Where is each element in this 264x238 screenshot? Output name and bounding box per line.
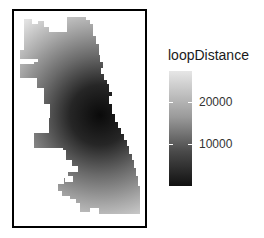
- notch-white: [20, 59, 38, 62]
- tick-mark-10000-left: [169, 144, 173, 145]
- legend-title: loopDistance: [168, 47, 249, 63]
- tick-mark-20000-left: [169, 102, 173, 103]
- colorbar: [169, 71, 192, 186]
- map-plot: [0, 0, 264, 238]
- tick-label-20000: 20000: [199, 95, 232, 109]
- notch-white-2: [65, 176, 73, 182]
- tick-label-10000: 10000: [199, 137, 232, 151]
- tick-mark-20000-right: [188, 102, 192, 103]
- tick-mark-10000-right: [188, 144, 192, 145]
